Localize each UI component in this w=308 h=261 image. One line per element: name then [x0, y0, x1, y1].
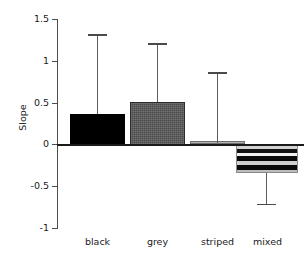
bar-grey — [130, 102, 185, 145]
y-tick-label-neg1: -1 — [40, 223, 49, 233]
x-label-grey: grey — [130, 236, 185, 247]
error-bar-stem-grey — [157, 43, 158, 102]
y-tick-1.5 — [52, 19, 57, 20]
error-bar-cap-mixed-bottom — [257, 204, 276, 206]
bar-black — [70, 114, 125, 145]
x-label-striped: striped — [190, 236, 245, 247]
bar-chart-figure: Slope 1.5 1 0.5 0 -0.5 -1 bl — [0, 0, 308, 261]
x-label-black: black — [70, 236, 125, 247]
y-tick-label-wrap-neg0.5: -0.5 — [0, 181, 49, 191]
y-tick-label-neg0.5: -0.5 — [30, 181, 49, 191]
error-bar-cap-striped-top — [208, 72, 227, 74]
y-tick-label-wrap-0: 0 — [0, 139, 49, 149]
error-bar-cap-grey-top — [148, 43, 167, 45]
y-tick-label-wrap-1.5: 1.5 — [0, 14, 49, 24]
y-tick-label-wrap-neg1: -1 — [0, 223, 49, 233]
y-tick-label-wrap-1: 1 — [0, 56, 49, 66]
y-tick-label-1: 1 — [43, 56, 49, 66]
error-bar-stem-striped — [217, 72, 218, 143]
y-tick-neg0.5 — [52, 186, 57, 187]
error-bar-stem-mixed — [266, 173, 267, 204]
y-axis-line — [57, 19, 58, 229]
y-tick-label-0: 0 — [43, 139, 49, 149]
y-tick-label-1.5: 1.5 — [34, 14, 49, 24]
y-tick-neg1 — [52, 228, 57, 229]
error-bar-cap-black-top — [88, 34, 107, 36]
bar-mixed — [236, 144, 298, 173]
x-label-mixed: mixed — [240, 236, 295, 247]
y-tick-label-0.5: 0.5 — [34, 98, 49, 108]
error-bar-stem-black — [97, 34, 98, 114]
y-tick-label-wrap-0.5: 0.5 — [0, 98, 49, 108]
y-tick-1 — [52, 61, 57, 62]
y-tick-0.5 — [52, 103, 57, 104]
zero-baseline — [57, 144, 304, 146]
